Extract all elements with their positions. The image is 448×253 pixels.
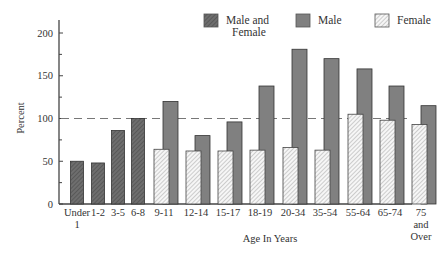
x-tick-label: 65-74 (378, 207, 403, 218)
x-axis-title: Age In Years (243, 233, 298, 244)
x-tick-label: 55-64 (346, 207, 371, 218)
legend-swatch-male (296, 14, 310, 27)
x-tick-label: 1-2 (91, 207, 105, 218)
bar-female (218, 151, 233, 204)
x-tick-label: Under (64, 207, 91, 218)
bar-male-and-female (71, 161, 84, 204)
bar-male-and-female (132, 119, 145, 205)
bar-female (154, 149, 169, 204)
legend-label: Male (318, 14, 342, 26)
bar-male-and-female (112, 130, 125, 204)
x-tick-label: 12-14 (184, 207, 209, 218)
bar-female (380, 120, 395, 204)
y-tick-label: 200 (37, 28, 53, 39)
legend-label: Male and (226, 14, 269, 26)
y-tick-label: 50 (43, 156, 54, 167)
bar-male-and-female (92, 163, 105, 204)
x-tick-label: 15-17 (216, 207, 241, 218)
x-tick-label: 20-34 (281, 207, 306, 218)
y-tick-label: 150 (37, 70, 53, 81)
bar-female (348, 114, 363, 204)
bars (71, 49, 437, 204)
y-tick-label: 0 (48, 199, 53, 210)
bar-female (315, 150, 330, 204)
legend-swatch-male-and-female (204, 14, 218, 27)
x-tick-label: 9-11 (155, 207, 174, 218)
y-axis-ticks: 050100150200 (37, 28, 63, 210)
legend: Male andFemaleMaleFemale (204, 14, 431, 38)
x-tick-label: 35-54 (313, 207, 338, 218)
bar-female (250, 150, 265, 204)
x-tick-label: Over (411, 231, 432, 242)
legend-label: Female (397, 14, 431, 26)
x-tick-label: and (413, 219, 429, 230)
bar-chart: 050100150200 Under11-23-56-89-1112-1415-… (0, 0, 448, 253)
x-tick-label: 3-5 (111, 207, 125, 218)
legend-swatch-female (375, 14, 389, 27)
x-tick-label: 75 (416, 207, 427, 218)
y-axis-title: Percent (15, 102, 26, 134)
x-tick-label: 1 (74, 219, 79, 230)
bar-female (186, 151, 201, 204)
bar-female (283, 148, 298, 204)
x-tick-label: 18-19 (248, 207, 273, 218)
legend-label: Female (232, 26, 266, 38)
y-tick-label: 100 (37, 113, 53, 124)
bar-female (412, 124, 427, 204)
x-tick-label: 6-8 (131, 207, 145, 218)
